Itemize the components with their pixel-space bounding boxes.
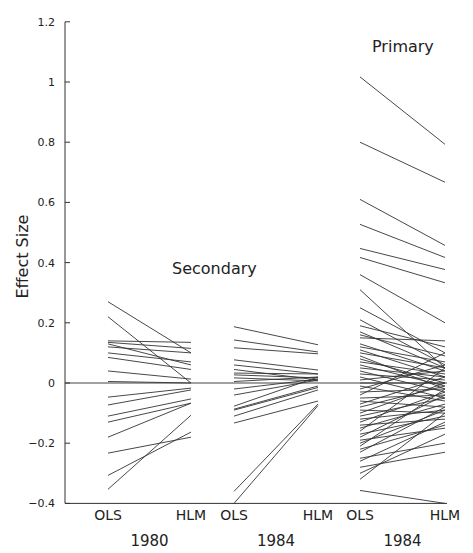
y-tick-label: 0.2 bbox=[38, 317, 56, 330]
group-label-secondary: Secondary bbox=[172, 259, 257, 278]
series-line bbox=[234, 365, 318, 374]
series-line bbox=[234, 388, 318, 411]
x-label-hlm: HLM bbox=[303, 507, 333, 523]
x-label-ols: OLS bbox=[220, 507, 248, 523]
y-tick-label: 0.6 bbox=[38, 196, 56, 209]
series-line bbox=[234, 360, 318, 370]
series-line bbox=[108, 403, 191, 422]
series-line bbox=[108, 399, 191, 416]
series-line bbox=[360, 416, 445, 434]
x-label-ols: OLS bbox=[346, 507, 374, 523]
y-tick-label: −0.2 bbox=[28, 437, 55, 450]
y-tick-label: 1 bbox=[48, 76, 55, 89]
series-line bbox=[360, 422, 445, 461]
series-line bbox=[360, 248, 445, 269]
series-line bbox=[360, 275, 445, 323]
series-line bbox=[234, 406, 318, 504]
series-line bbox=[360, 142, 445, 182]
series-lines bbox=[108, 77, 445, 504]
series-line bbox=[360, 77, 445, 144]
x-label-year: 1984 bbox=[383, 532, 421, 550]
series-line bbox=[360, 395, 445, 437]
x-labels: OLSHLM1980OLSHLM1984OLSHLM1984 bbox=[94, 507, 460, 550]
series-line bbox=[108, 371, 191, 379]
series-line bbox=[360, 199, 445, 245]
series-line bbox=[360, 434, 445, 473]
series-line bbox=[234, 377, 318, 406]
series-line bbox=[234, 386, 318, 409]
x-label-ols: OLS bbox=[94, 507, 122, 523]
series-line bbox=[108, 341, 191, 343]
series-line bbox=[234, 373, 318, 374]
group-label-primary: Primary bbox=[372, 37, 434, 56]
series-line bbox=[234, 404, 318, 491]
series-line bbox=[108, 403, 191, 437]
y-axis-title: Effect Size bbox=[13, 215, 32, 299]
series-line bbox=[360, 308, 445, 353]
series-line bbox=[234, 348, 318, 354]
series-line bbox=[108, 437, 191, 453]
series-line bbox=[360, 257, 445, 282]
series-line bbox=[360, 320, 445, 365]
series-line bbox=[360, 338, 445, 341]
y-ticks: 1.210.80.60.40.20−0.2−0.4 bbox=[28, 16, 70, 511]
series-line bbox=[360, 344, 445, 371]
panel-primary-1984 bbox=[360, 77, 445, 504]
series-line bbox=[108, 357, 191, 369]
y-tick-label: 0 bbox=[48, 377, 55, 390]
series-line bbox=[360, 452, 445, 467]
x-label-year: 1980 bbox=[130, 532, 168, 550]
series-line bbox=[360, 413, 445, 479]
series-line bbox=[360, 224, 445, 257]
x-label-hlm: HLM bbox=[430, 507, 460, 523]
x-label-year: 1984 bbox=[257, 532, 295, 550]
panel-secondary-1984 bbox=[234, 327, 318, 504]
y-tick-label: 0.4 bbox=[38, 257, 56, 270]
y-tick-label: 1.2 bbox=[38, 16, 56, 29]
series-line bbox=[108, 432, 191, 475]
x-label-hlm: HLM bbox=[176, 507, 206, 523]
effect-size-chart: 1.210.80.60.40.20−0.2−0.4 Effect Size Se… bbox=[0, 0, 473, 553]
panel-secondary-1980 bbox=[108, 302, 191, 490]
series-line bbox=[360, 490, 445, 503]
y-tick-label: −0.4 bbox=[28, 497, 55, 510]
series-line bbox=[108, 415, 191, 489]
y-tick-label: 0.8 bbox=[38, 136, 56, 149]
